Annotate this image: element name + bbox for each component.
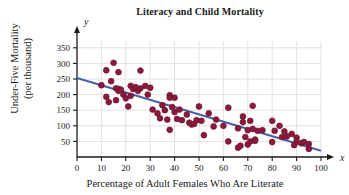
x-axis-label: Percentage of Adult Females Who Are Lite…	[40, 178, 330, 189]
data-point	[103, 67, 109, 73]
data-point	[172, 95, 178, 101]
data-point	[250, 103, 256, 109]
x-tick-label: 70	[243, 163, 253, 173]
x-axis-arrow	[327, 154, 334, 160]
data-point	[242, 134, 248, 140]
y-axis-arrow	[74, 26, 80, 33]
data-point	[184, 112, 190, 118]
data-point	[196, 104, 202, 110]
y-tick-label: 300	[57, 59, 71, 69]
data-point	[128, 93, 134, 99]
x-tick-label: 10	[97, 163, 107, 173]
data-point	[260, 127, 266, 133]
x-tick-label: 30	[146, 163, 156, 173]
data-point	[99, 82, 105, 88]
data-point	[147, 85, 153, 91]
data-point	[138, 68, 144, 74]
data-point	[240, 119, 246, 125]
data-point	[269, 118, 275, 124]
axis-ticks: 0102030405060708090100501001502002503003…	[57, 43, 329, 173]
data-point	[179, 117, 185, 123]
data-point	[247, 118, 253, 124]
x-tick-label: 40	[170, 163, 180, 173]
x-tick-label: 0	[75, 163, 80, 173]
data-point	[199, 118, 205, 124]
data-point	[238, 143, 244, 149]
chart-figure: Literacy and Child Mortality 01020304050…	[0, 0, 349, 195]
y-tick-label: 150	[57, 105, 71, 115]
data-point	[162, 107, 168, 113]
x-tick-label: 80	[268, 163, 278, 173]
data-point	[125, 104, 131, 110]
x-tick-label: 20	[121, 163, 131, 173]
y-tick-label: 250	[57, 74, 71, 84]
x-tick-label: 50	[195, 163, 205, 173]
y-axis-label: Under-Five Mortality (per thousand)	[9, 4, 34, 134]
x-tick-label: 60	[219, 163, 229, 173]
x-axis-symbol: x	[339, 152, 345, 163]
data-point	[211, 124, 217, 130]
data-point	[103, 94, 109, 100]
data-point	[111, 60, 117, 66]
y-axis-symbol: y	[83, 16, 89, 27]
y-tick-label: 50	[61, 137, 71, 147]
data-point	[306, 146, 312, 152]
x-tick-label: 90	[292, 163, 302, 173]
data-point	[145, 92, 151, 98]
data-point	[116, 69, 122, 75]
y-tick-label: 200	[57, 90, 71, 100]
data-point	[167, 127, 173, 133]
data-point	[150, 107, 156, 113]
x-tick-label: 100	[314, 163, 328, 173]
data-point	[269, 139, 275, 145]
data-point	[240, 114, 246, 120]
y-axis-label-line1: Under-Five Mortality	[9, 4, 22, 134]
y-axis-label-line2: (per thousand)	[21, 4, 34, 134]
data-point	[106, 99, 112, 105]
data-point	[201, 132, 207, 138]
data-points	[99, 60, 312, 152]
data-point	[213, 117, 219, 123]
y-tick-label: 350	[57, 43, 71, 53]
data-point	[157, 115, 163, 121]
data-point	[206, 110, 212, 116]
data-point	[225, 139, 231, 145]
data-point	[252, 138, 258, 144]
data-point	[177, 107, 183, 113]
data-point	[113, 97, 119, 103]
data-point	[289, 131, 295, 137]
data-point	[225, 105, 231, 111]
scatter-plot: 0102030405060708090100501001502002503003…	[0, 0, 349, 195]
data-point	[221, 123, 227, 129]
data-point	[235, 125, 241, 131]
data-point	[277, 123, 283, 129]
data-point	[108, 78, 114, 84]
data-point	[164, 117, 170, 123]
data-point	[272, 128, 278, 134]
y-tick-label: 100	[57, 121, 71, 131]
